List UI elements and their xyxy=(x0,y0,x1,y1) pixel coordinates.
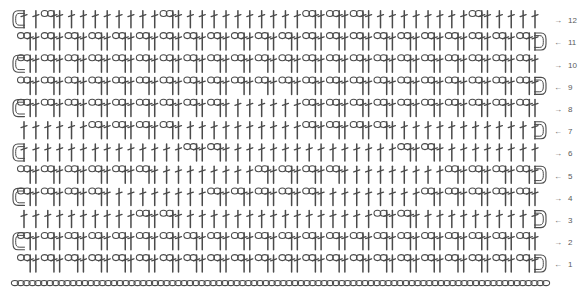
row-number-label-5: 5 xyxy=(568,172,573,181)
row-number-label-9: 9 xyxy=(568,83,573,92)
row-number-label-4: 4 xyxy=(568,194,573,203)
row-direction-arrow-3: ← xyxy=(554,216,562,225)
row-direction-arrow-6: → xyxy=(554,149,562,158)
crochet-chart-root: ←1→2←3→4←5→6←7→8←9→10←11→12 xyxy=(0,0,581,294)
chart-background xyxy=(0,0,581,294)
row-direction-arrow-2: → xyxy=(554,238,562,247)
row-direction-arrow-11: ← xyxy=(554,38,562,47)
row-direction-arrow-9: ← xyxy=(554,83,562,92)
row-number-label-2: 2 xyxy=(568,238,573,247)
row-direction-arrow-10: → xyxy=(554,61,562,70)
row-number-label-6: 6 xyxy=(568,149,573,158)
row-direction-arrow-12: → xyxy=(554,16,562,25)
row-number-label-12: 12 xyxy=(568,16,577,25)
row-direction-arrow-4: → xyxy=(554,194,562,203)
row-direction-arrow-5: ← xyxy=(554,172,562,181)
row-number-label-7: 7 xyxy=(568,127,573,136)
row-direction-arrow-8: → xyxy=(554,105,562,114)
row-direction-arrow-7: ← xyxy=(554,127,562,136)
row-number-label-10: 10 xyxy=(568,61,577,70)
row-number-label-1: 1 xyxy=(568,260,573,269)
row-number-label-8: 8 xyxy=(568,105,573,114)
row-direction-arrow-1: ← xyxy=(554,260,562,269)
row-number-label-3: 3 xyxy=(568,216,573,225)
row-number-label-11: 11 xyxy=(568,38,577,47)
crochet-chart-canvas: ←1→2←3→4←5→6←7→8←9→10←11→12 xyxy=(0,0,581,294)
